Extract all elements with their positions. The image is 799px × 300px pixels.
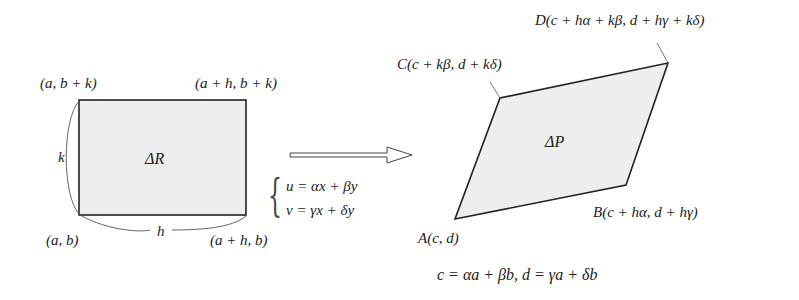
- corner-label-top-left: (a, b + k): [40, 76, 97, 91]
- vertex-label-b: B(c + hα, d + hγ): [593, 205, 698, 220]
- vertex-label-d: D(c + hα + kβ, d + hγ + kδ): [535, 13, 705, 28]
- corner-label-top-right: (a + h, b + k): [195, 76, 277, 91]
- leader-line-c: [490, 82, 500, 98]
- transform-arrow-icon: [290, 147, 412, 163]
- side-label-k: k: [58, 150, 65, 165]
- k-side-curve: [66, 101, 79, 214]
- vertex-label-c: C(c + kβ, d + kδ): [397, 57, 502, 72]
- corner-label-bottom-left: (a, b): [46, 233, 79, 248]
- area-label-delta-p: ΔP: [545, 133, 564, 151]
- corner-label-bottom-right: (a + h, b): [210, 233, 268, 248]
- equation-v: v = γx + δy: [286, 202, 354, 219]
- diagram-canvas: [0, 0, 799, 300]
- area-label-delta-r: ΔR: [145, 150, 164, 168]
- equation-u: u = αx + βy: [286, 178, 357, 195]
- side-label-h: h: [157, 224, 165, 239]
- footnote-equation: c = αa + βb, d = γa + δb: [437, 267, 597, 283]
- vertex-label-a: A(c, d): [418, 231, 459, 246]
- left-brace-icon: {: [268, 174, 282, 218]
- leader-line-d: [657, 43, 668, 63]
